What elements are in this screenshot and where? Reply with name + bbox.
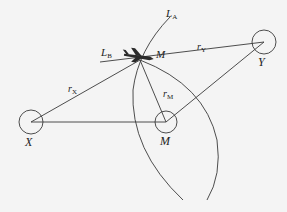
label-r-m: rM: [163, 88, 174, 101]
label-l-a: LA: [165, 7, 177, 21]
arc-line-a: [133, 17, 183, 200]
arc-line-b-lower: [140, 60, 218, 200]
navigation-diagram: LA LB M rY rX rM Y X M: [0, 0, 287, 212]
label-station-y: Y: [258, 55, 266, 69]
label-station-m: M: [159, 134, 171, 148]
label-r-x: rX: [68, 83, 77, 96]
label-station-x: X: [24, 135, 33, 149]
range-line-x: [31, 60, 140, 122]
label-aircraft-m: M: [155, 48, 166, 60]
label-l-b: LB: [100, 46, 112, 60]
label-r-y: rY: [197, 41, 206, 54]
